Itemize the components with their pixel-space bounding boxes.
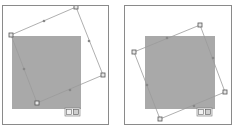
edge-midpoint-handle[interactable]: [212, 57, 215, 60]
edge-midpoint-handle[interactable]: [23, 68, 26, 71]
edge-midpoint-handle[interactable]: [193, 105, 196, 108]
corner-resize-handle[interactable]: [74, 6, 78, 9]
corner-resize-handle[interactable]: [198, 23, 202, 27]
canvas-panel-right: [124, 5, 232, 125]
rotate-right-icon[interactable]: [74, 110, 79, 115]
corner-resize-handle[interactable]: [158, 117, 162, 121]
corner-resize-handle[interactable]: [9, 33, 13, 37]
corner-resize-handle[interactable]: [35, 101, 39, 105]
rotate-right-icon[interactable]: [206, 110, 211, 115]
gray-square-shape[interactable]: [12, 36, 81, 109]
corner-resize-handle[interactable]: [132, 50, 136, 54]
edge-midpoint-handle[interactable]: [69, 89, 72, 92]
gray-square-shape[interactable]: [145, 36, 215, 109]
rotation-canvas-right[interactable]: [125, 6, 233, 126]
canvas-panel-left: [2, 5, 109, 125]
edge-midpoint-handle[interactable]: [43, 20, 46, 23]
edge-midpoint-handle[interactable]: [88, 40, 91, 43]
rotation-canvas-left[interactable]: [3, 6, 110, 126]
edge-midpoint-handle[interactable]: [146, 84, 149, 87]
corner-resize-handle[interactable]: [101, 73, 105, 77]
corner-resize-handle[interactable]: [223, 90, 227, 94]
edge-midpoint-handle[interactable]: [166, 37, 169, 40]
